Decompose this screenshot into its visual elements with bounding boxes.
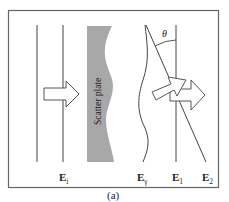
angle-label: θ xyxy=(162,28,167,39)
scatter-plate-diagram: Scatter plate θ Ei Eγ E1 E2 (a) xyxy=(0,0,229,202)
scatter-plate-label: Scatter plate xyxy=(93,78,103,125)
label-scattered-field: Eγ xyxy=(137,171,148,186)
label-beam1-field: E1 xyxy=(172,171,183,186)
label-beam2-field: E2 xyxy=(202,171,213,186)
angle-arc xyxy=(155,40,176,46)
incident-arrow-icon xyxy=(44,81,79,107)
label-incident-field: Ei xyxy=(59,171,68,186)
figure-caption: (a) xyxy=(107,189,120,202)
scattered-wavefront-line xyxy=(139,25,148,162)
